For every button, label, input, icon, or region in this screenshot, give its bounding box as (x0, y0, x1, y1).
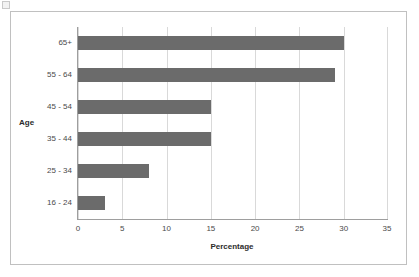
ytick-label-45-54: 45 - 54 (47, 100, 72, 114)
bar-row-35-44: 35 - 44 (78, 123, 388, 155)
xtick-15: 15 (206, 224, 215, 233)
bar-65plus[interactable] (78, 36, 344, 50)
ytick-label-65plus: 65+ (58, 36, 72, 50)
bar-row-45-54: 45 - 54 (78, 91, 388, 123)
ytick-label-55-64: 55 - 64 (47, 68, 72, 82)
bar-25-34[interactable] (78, 164, 149, 178)
xtick-10: 10 (162, 224, 171, 233)
bar-55-64[interactable] (78, 68, 335, 82)
image-corner-artifact (2, 1, 10, 9)
xtick-35: 35 (383, 224, 392, 233)
ytick-label-35-44: 35 - 44 (47, 132, 72, 146)
xtick-0: 0 (76, 224, 80, 233)
bar-16-24[interactable] (78, 196, 105, 210)
xtick-30: 30 (339, 224, 348, 233)
bar-row-16-24: 16 - 24 (78, 187, 388, 219)
xtick-5: 5 (120, 224, 124, 233)
bar-series: 65+ 55 - 64 45 - 54 35 - 44 25 - 34 16 - (78, 27, 388, 219)
y-axis-title: Age (19, 118, 34, 127)
plot-area: 65+ 55 - 64 45 - 54 35 - 44 25 - 34 16 - (77, 27, 388, 220)
bar-row-55-64: 55 - 64 (78, 59, 388, 91)
xtick-25: 25 (295, 224, 304, 233)
ytick-label-25-34: 25 - 34 (47, 164, 72, 178)
xtick-20: 20 (251, 224, 260, 233)
x-axis-title: Percentage (77, 242, 387, 251)
bar-35-44[interactable] (78, 132, 211, 146)
bar-45-54[interactable] (78, 100, 211, 114)
chart-frame: 65+ 55 - 64 45 - 54 35 - 44 25 - 34 16 - (10, 11, 407, 265)
bar-row-65plus: 65+ (78, 27, 388, 59)
bar-row-25-34: 25 - 34 (78, 155, 388, 187)
ytick-label-16-24: 16 - 24 (47, 196, 72, 210)
